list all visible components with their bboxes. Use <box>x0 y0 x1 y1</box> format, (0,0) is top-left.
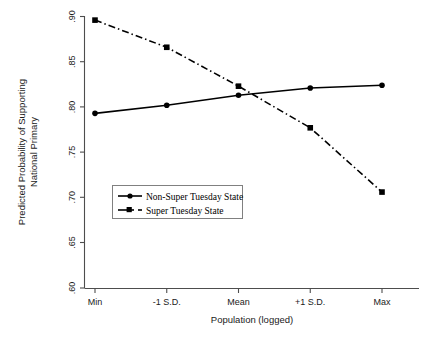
x-tick-marks <box>95 289 382 294</box>
data-point-circle <box>164 102 170 108</box>
y-tick-label: .90 <box>67 10 77 23</box>
legend[interactable]: Non-Super Tuesday State Super Tuesday St… <box>113 186 244 219</box>
y-tick-labels: .90 .85 .80 .75 .70 .65 .60 <box>67 10 77 294</box>
legend-marker-circle <box>127 193 132 198</box>
y-tick-label: .85 <box>67 55 77 68</box>
data-point-square <box>379 189 385 195</box>
legend-label-non-super-tuesday: Non-Super Tuesday State <box>146 192 243 202</box>
x-tick-label: -1 S.D. <box>153 297 181 307</box>
y-tick-label: .60 <box>67 282 77 295</box>
y-tick-label: .65 <box>67 236 77 249</box>
y-axis-title-line1: Predicted Probability of Supporting <box>16 79 27 225</box>
x-tick-label: Mean <box>227 297 250 307</box>
y-axis-title-line2: National Primary <box>28 117 39 187</box>
y-tick-label: .75 <box>67 146 77 159</box>
data-point-square <box>236 83 242 89</box>
x-tick-label: Max <box>373 297 391 307</box>
legend-label-super-tuesday: Super Tuesday State <box>146 206 224 216</box>
series-line <box>95 20 382 192</box>
data-point-square <box>164 44 170 50</box>
line-chart: .90 .85 .80 .75 .70 .65 .60 Predicted Pr… <box>0 0 430 341</box>
x-tick-label: Min <box>88 297 103 307</box>
y-tick-label: .80 <box>67 101 77 114</box>
data-point-circle <box>92 111 98 117</box>
x-tick-label: +1 S.D. <box>295 297 325 307</box>
y-tick-marks <box>80 17 85 289</box>
data-point-square <box>92 17 98 23</box>
series-layer <box>92 17 385 195</box>
data-point-circle <box>236 92 242 98</box>
chart-container: .90 .85 .80 .75 .70 .65 .60 Predicted Pr… <box>0 0 430 341</box>
legend-marker-square <box>127 207 132 212</box>
data-point-square <box>307 125 313 131</box>
data-point-circle <box>307 85 313 91</box>
y-axis-title: Predicted Probability of Supporting Nati… <box>16 79 39 225</box>
series-line <box>95 85 382 113</box>
x-tick-labels: Min -1 S.D. Mean +1 S.D. Max <box>88 297 391 307</box>
x-axis-title: Population (logged) <box>211 314 293 325</box>
data-point-circle <box>379 82 385 88</box>
series-super-tuesday <box>92 17 385 195</box>
y-tick-label: .70 <box>67 191 77 204</box>
